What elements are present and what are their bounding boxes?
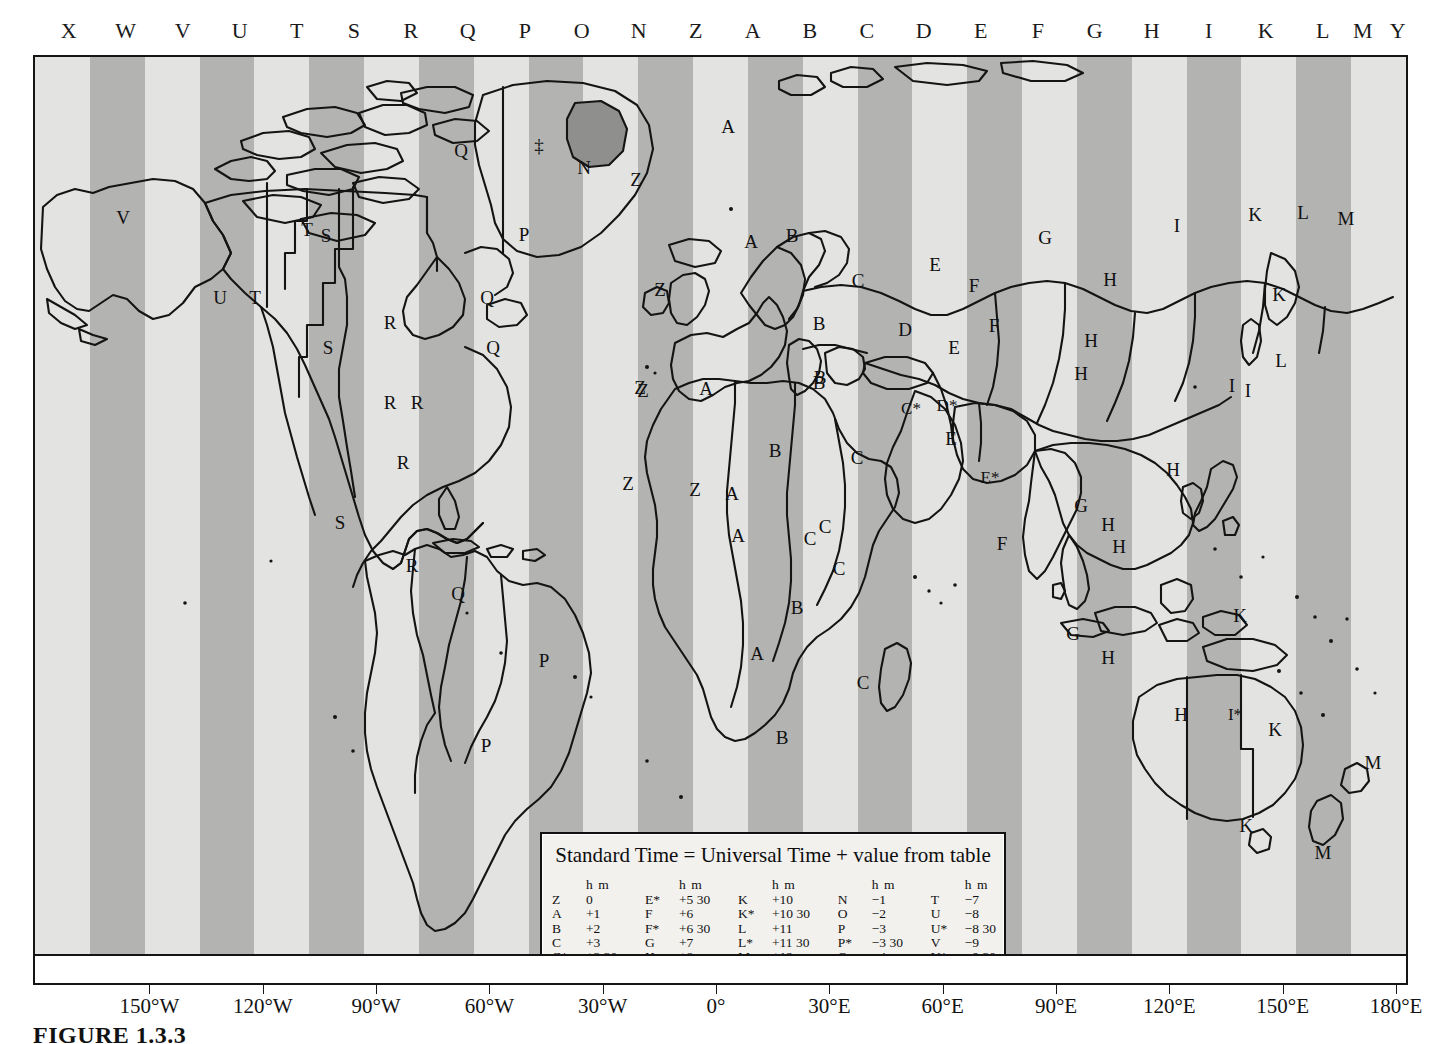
map-label-76: C [833,559,846,578]
zone-letter-y-24: Y [1390,20,1406,42]
map-label-17: R [406,556,419,575]
legend-zone-key: B [552,922,586,936]
map-label-15: R [397,453,410,472]
longitude-label-6: 30°E [808,996,850,1017]
legend-column-2: h mK+10K*+10 30L+11L*+11 30M+12M*+13M†+1… [738,878,810,956]
legend-zone-key: T [931,893,965,907]
map-label-64: I* [1228,705,1242,724]
map-label-2: T [249,288,261,307]
legend-zone-key: P* [838,936,872,950]
map-label-43: M [1338,209,1355,228]
map-label-22: Z [654,280,666,299]
zone-letter-g-18: G [1087,20,1103,42]
legend-column-header-4: h m [965,878,989,892]
longitude-label-4: 30°W [578,996,627,1017]
legend-box: Standard Time = Universal Time + value f… [540,832,1006,956]
zone-letter-n-10: N [631,20,647,42]
map-label-13: N [577,158,591,177]
legend-zone-key: K* [738,907,772,921]
legend-column-header-2: h m [772,878,796,892]
legend-zone-key: U [931,907,965,921]
legend-row: V−9 [931,936,996,950]
map-label-51: C* [901,399,921,418]
map-label-41: K [1248,205,1262,224]
zone-letter-c-14: C [859,20,874,42]
legend-row: E*+5 30 [645,893,710,907]
map-label-8: Q [454,141,468,160]
legend-row: P*−3 30 [838,936,903,950]
legend-zone-offset: −8 30 [965,922,996,936]
legend-column-0: h mZ0A+1B+2C+3C*+3 30D+4D*+4 30E+5 [552,878,617,956]
map-label-68: M [1315,843,1332,862]
legend-row: P−3 [838,922,903,936]
legend-row: L*+11 30 [738,936,810,950]
longitude-tick-3 [489,985,490,994]
longitude-tick-0 [149,985,150,994]
legend-zone-offset: +10 30 [772,907,810,921]
legend-zone-key: G [645,936,679,950]
legend-row: K*+10 30 [738,907,810,921]
map-label-1: U [213,288,227,307]
map-label-27: A [744,232,758,251]
longitude-tick-4 [603,985,604,994]
legend-zone-key: A [552,907,586,921]
zone-letter-d-15: D [916,20,932,42]
map-label-18: Q [451,584,465,603]
zone-letter-e-16: E [974,20,988,42]
map-label-46: K [1272,285,1286,304]
zone-letter-b-13: B [802,20,817,42]
longitude-tick-1 [263,985,264,994]
longitude-tick-11 [1396,985,1397,994]
legend-zone-key: O [838,907,872,921]
map-label-40: I [1174,216,1180,235]
zone-letter-m-23: M [1353,20,1373,42]
legend-zone-offset: 0 [586,893,593,907]
map-label-16: S [335,513,346,532]
longitude-axis: 150°W120°W90°W60°W30°W0°30°E60°E90°E120°… [33,985,1408,1025]
legend-zone-offset: +6 30 [679,922,710,936]
longitude-tick-9 [1169,985,1170,994]
legend-row: T−7 [931,893,996,907]
legend-zone-offset: −9 [965,936,979,950]
map-label-75: A [731,526,745,545]
map-label-14: P [519,225,530,244]
legend-row: N−1 [838,893,903,907]
map-label-69: Z [689,480,701,499]
map-label-25: Z [622,474,634,493]
zone-letter-v-2: V [175,20,191,42]
legend-column-header-1: h m [679,878,703,892]
longitude-tick-8 [1056,985,1057,994]
map-label-61: H [1101,648,1115,667]
map-label-70: A [725,484,739,503]
map-label-47: L [1275,351,1287,370]
longitude-tick-7 [943,985,944,994]
longitude-label-9: 120°E [1143,996,1196,1017]
zone-letter-p-8: P [519,20,532,42]
zone-letter-t-4: T [290,20,304,42]
map-label-48: I [1229,376,1235,395]
legend-zone-key: C [552,936,586,950]
map-label-67: M [1365,753,1382,772]
map-label-29: A [699,379,713,398]
longitude-label-1: 120°W [233,996,293,1017]
map-label-34: F [989,316,1000,335]
legend-row: G+7 [645,936,710,950]
legend-zone-offset: −7 [965,893,979,907]
legend-zone-key: P [838,922,872,936]
legend-row: B+2 [552,922,617,936]
zone-letter-k-21: K [1258,20,1274,42]
map-label-4: S [321,226,332,245]
longitude-label-11: 180°E [1370,996,1423,1017]
zone-letter-u-3: U [232,20,248,42]
map-label-55: G [1074,496,1088,515]
map-label-19: P [539,651,550,670]
legend-zone-offset: +11 30 [772,936,810,950]
map-label-33: F [969,276,980,295]
legend-zone-offset: −2 [872,907,886,921]
legend-zone-key: E* [645,893,679,907]
map-label-38: B [813,373,826,392]
legend-zone-offset: +7 [679,936,693,950]
legend-zone-key: N [838,893,872,907]
map-label-45: H [1084,331,1098,350]
zone-letter-x-0: X [61,20,77,42]
